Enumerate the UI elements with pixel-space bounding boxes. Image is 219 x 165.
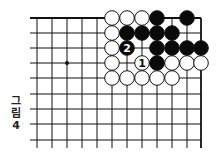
black-stone: 2 (120, 41, 135, 56)
white-stone (105, 71, 120, 86)
white-stone (120, 71, 135, 86)
move-number: 1 (138, 57, 146, 70)
black-stone (150, 56, 165, 71)
white-stone (194, 56, 209, 71)
star-points (65, 61, 69, 65)
black-stone (194, 41, 209, 56)
black-stone (165, 41, 180, 56)
black-stone (165, 26, 180, 41)
black-stone (120, 26, 135, 41)
white-stone (150, 71, 165, 86)
white-stone (105, 26, 120, 41)
white-stone (135, 71, 150, 86)
figure-caption: 그 림 4 (8, 96, 24, 132)
black-stone (150, 26, 165, 41)
go-board-diagram: 21 (0, 0, 219, 165)
white-stone (165, 71, 180, 86)
stones-layer: 21 (105, 11, 209, 86)
caption-number: 4 (8, 120, 24, 132)
star-point (65, 61, 69, 65)
white-stone (135, 11, 150, 26)
white-stone (120, 11, 135, 26)
black-stone (150, 11, 165, 26)
black-stone (150, 41, 165, 56)
white-stone (105, 11, 120, 26)
black-stone (180, 41, 195, 56)
white-stone (165, 56, 180, 71)
black-stone (135, 26, 150, 41)
white-stone (105, 56, 120, 71)
move-number: 2 (123, 42, 131, 55)
white-stone (105, 41, 120, 56)
black-stone (180, 11, 195, 26)
white-stone: 1 (135, 56, 150, 71)
white-stone (180, 56, 195, 71)
